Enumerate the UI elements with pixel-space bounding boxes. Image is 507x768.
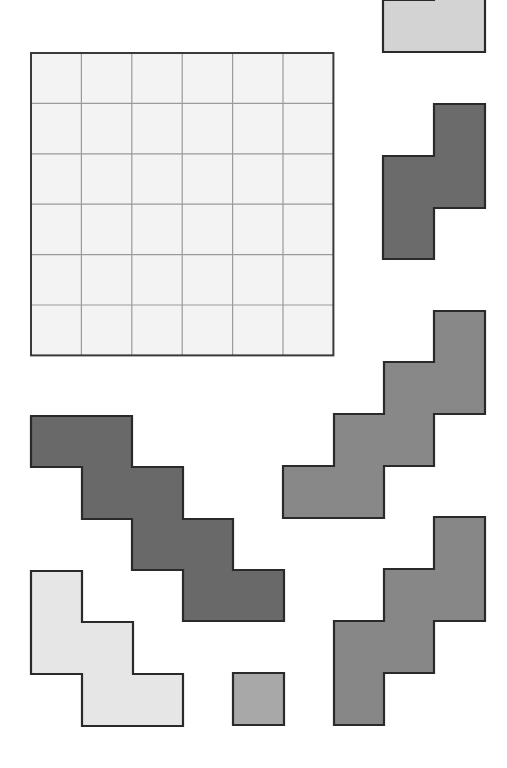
piece-light-top[interactable] bbox=[383, 0, 485, 52]
puzzle-canvas bbox=[0, 0, 507, 768]
piece-light-staircase-5[interactable] bbox=[31, 571, 183, 726]
piece-small-square[interactable] bbox=[233, 673, 284, 725]
piece-medium-staircase-6[interactable] bbox=[334, 517, 485, 725]
grid-board-6x6 bbox=[31, 53, 333, 355]
piece-dark-s-tetromino[interactable] bbox=[383, 104, 485, 259]
puzzle-diagram bbox=[0, 0, 507, 768]
